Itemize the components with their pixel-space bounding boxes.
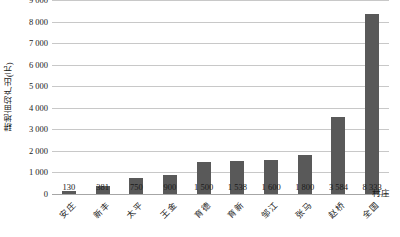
bar-slot: 900 (153, 0, 187, 194)
bar-slot: 3 584 (322, 0, 356, 194)
bar-value-label: 1 800 (295, 182, 314, 192)
x-axis-category-label: 育德 (191, 199, 212, 220)
y-axis-tick-label: 4 000 (29, 103, 48, 113)
y-axis-tick-label: 9 000 (29, 0, 48, 5)
x-label-slot: 安庄 (52, 194, 86, 237)
bar-slot: 1 500 (187, 0, 221, 194)
bar-slot: 8 333 (355, 0, 389, 194)
x-axis-category-label: 邹江 (258, 199, 279, 220)
y-axis-tick-label: 8 000 (29, 17, 48, 27)
bar-slot: 1 538 (221, 0, 255, 194)
x-axis-category-label: 赵桥 (326, 199, 347, 220)
y-axis-tick-label: 0 (44, 189, 48, 199)
x-label-slot: 张马 (288, 194, 322, 237)
x-axis-category-label: 王金 (157, 199, 178, 220)
x-axis-category-labels: 安庄新丰太平王金育德育新邹江张马赵桥全国 (52, 194, 389, 237)
bar-value-label: 8 333 (363, 182, 382, 192)
x-label-slot: 赵桥 (322, 194, 356, 237)
x-axis-category-label: 全国 (359, 199, 380, 220)
bar-slot: 1 800 (288, 0, 322, 194)
bar[interactable] (365, 14, 379, 194)
x-label-slot: 王金 (153, 194, 187, 237)
bar-slot: 381 (86, 0, 120, 194)
bar-chart: 耕地亩均产出(元) 01 0002 0003 0004 0005 0006 00… (0, 0, 400, 237)
bar-slot: 130 (52, 0, 86, 194)
x-axis-category-label: 安庄 (56, 199, 77, 220)
y-axis-tick-label: 1 000 (29, 167, 48, 177)
y-axis-tick-label: 5 000 (29, 81, 48, 91)
x-label-slot: 育德 (187, 194, 221, 237)
x-label-slot: 育新 (221, 194, 255, 237)
bar-slot: 1 600 (254, 0, 288, 194)
bar-value-label: 130 (62, 182, 75, 192)
bar-value-label: 1 538 (228, 182, 247, 192)
y-axis-tick-label: 6 000 (29, 60, 48, 70)
bar-value-label: 3 584 (329, 182, 348, 192)
x-label-slot: 邹江 (254, 194, 288, 237)
x-label-slot: 全国 (355, 194, 389, 237)
y-axis-tick-label: 3 000 (29, 124, 48, 134)
bar-value-label: 1 600 (262, 182, 281, 192)
bar-series: 1303817509001 5001 5381 6001 8003 5848 3… (52, 0, 389, 194)
bar-value-label: 900 (164, 182, 177, 192)
bar-value-label: 381 (96, 182, 109, 192)
y-axis-tick-labels: 01 0002 0003 0004 0005 0006 0007 0008 00… (14, 0, 50, 194)
bar-slot: 750 (119, 0, 153, 194)
x-axis-category-label: 张马 (292, 199, 313, 220)
y-axis-tick-label: 7 000 (29, 38, 48, 48)
x-axis-category-label: 育新 (225, 199, 246, 220)
bar-value-label: 750 (130, 182, 143, 192)
x-axis-category-label: 新丰 (90, 199, 111, 220)
x-label-slot: 新丰 (86, 194, 120, 237)
plot-area: 1303817509001 5001 5381 6001 8003 5848 3… (52, 0, 389, 194)
x-label-slot: 太平 (119, 194, 153, 237)
x-axis-category-label: 太平 (124, 199, 145, 220)
bar-value-label: 1 500 (194, 182, 213, 192)
y-axis-tick-label: 2 000 (29, 146, 48, 156)
